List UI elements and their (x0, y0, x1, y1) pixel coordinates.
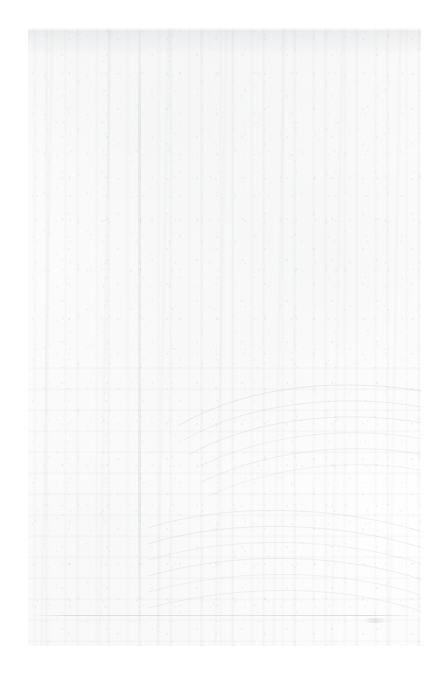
page-margin-right (421, 0, 446, 678)
stray-mark (364, 618, 386, 623)
vertical-striations-layer (28, 28, 421, 646)
emulsion-wash-layer (28, 28, 421, 646)
vertical-striations-layer-secondary (28, 28, 421, 646)
concentric-arcs-upper (178, 368, 421, 508)
vertical-seam (138, 28, 141, 646)
baseline-rule (32, 615, 417, 616)
top-shadow-band (28, 30, 421, 56)
concentric-arcs-lower (148, 498, 421, 628)
page-margin-bottom (0, 646, 446, 678)
page-margin-left (0, 0, 28, 678)
film-grain-layer (28, 28, 421, 646)
faded-photograph (28, 28, 421, 646)
page-margin-top (0, 0, 446, 28)
horizontal-ripples (28, 358, 421, 646)
page-canvas (0, 0, 446, 678)
